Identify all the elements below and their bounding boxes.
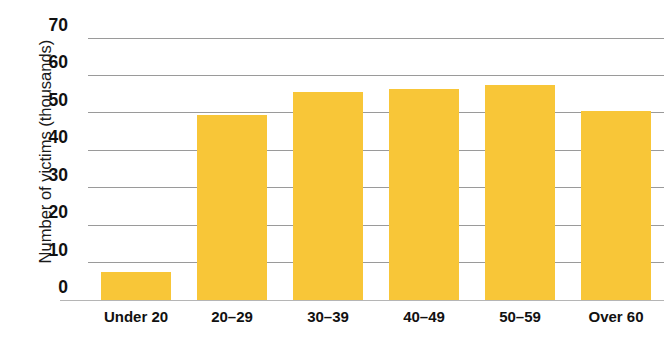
y-tick-label: 10 bbox=[28, 242, 68, 260]
bar[interactable] bbox=[197, 115, 267, 300]
y-tick-label: 0 bbox=[28, 279, 68, 297]
x-tick-label: 20–29 bbox=[184, 308, 280, 325]
x-tick-label: 30–39 bbox=[280, 308, 376, 325]
bar[interactable] bbox=[485, 85, 555, 300]
bar[interactable] bbox=[581, 111, 651, 300]
gridline bbox=[88, 75, 664, 76]
y-tick-label: 20 bbox=[28, 204, 68, 222]
bar[interactable] bbox=[101, 272, 171, 300]
gridline bbox=[88, 150, 664, 151]
gridline bbox=[88, 112, 664, 113]
plot-area: 010203040506070 bbox=[88, 38, 664, 300]
y-tick-label: 60 bbox=[28, 54, 68, 72]
gridline bbox=[88, 262, 664, 263]
bar[interactable] bbox=[389, 89, 459, 300]
y-tick-label: 70 bbox=[28, 17, 68, 35]
y-tick-label: 50 bbox=[28, 92, 68, 110]
y-tick-label: 40 bbox=[28, 129, 68, 147]
bar[interactable] bbox=[293, 92, 363, 300]
gridline bbox=[88, 187, 664, 188]
gridline bbox=[88, 225, 664, 226]
y-tick-label: 30 bbox=[28, 167, 68, 185]
bar-chart: Number of victims (thousands) 0102030405… bbox=[0, 0, 672, 348]
x-tick-label: 50–59 bbox=[472, 308, 568, 325]
gridline bbox=[88, 38, 664, 39]
x-tick-label: Under 20 bbox=[88, 308, 184, 325]
x-tick-label: Over 60 bbox=[568, 308, 664, 325]
x-tick-label: 40–49 bbox=[376, 308, 472, 325]
